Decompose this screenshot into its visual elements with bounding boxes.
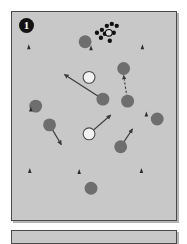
- marker-filled-circle: [105, 24, 109, 28]
- marker-filled-circle: [115, 24, 119, 28]
- marker-filled-circle: [79, 35, 92, 48]
- marker-filled-circle: [108, 39, 112, 43]
- marker-triangle: [141, 44, 145, 49]
- figure-root: 1: [0, 0, 187, 244]
- marker-filled-circle: [95, 31, 99, 35]
- marker-open-circle: [105, 29, 112, 36]
- marker-filled-circle: [100, 28, 104, 32]
- figure-panel-2: [11, 230, 177, 244]
- marker-open-circle: [83, 128, 95, 140]
- marker-open-circle: [83, 71, 95, 83]
- marker-triangle: [27, 44, 31, 49]
- marker-triangle: [77, 169, 81, 174]
- marker-filled-circle: [117, 62, 130, 75]
- marker-triangle: [145, 112, 149, 117]
- marker-filled-circle: [43, 118, 56, 131]
- marker-filled-circle: [99, 36, 103, 40]
- figure-panel-1: 1: [11, 11, 177, 221]
- marker-filled-circle: [151, 113, 164, 126]
- marker-filled-circle: [85, 182, 98, 195]
- marker-filled-circle: [121, 95, 134, 108]
- panel-1-plot-area: [12, 12, 176, 220]
- marker-filled-circle: [114, 140, 127, 153]
- marker-triangle: [28, 168, 32, 173]
- marker-filled-circle: [110, 22, 114, 26]
- panel-2-plot-area: [12, 231, 176, 243]
- marker-triangle: [140, 168, 144, 173]
- panel-number-badge: 1: [19, 18, 34, 33]
- marker-filled-circle: [96, 93, 109, 106]
